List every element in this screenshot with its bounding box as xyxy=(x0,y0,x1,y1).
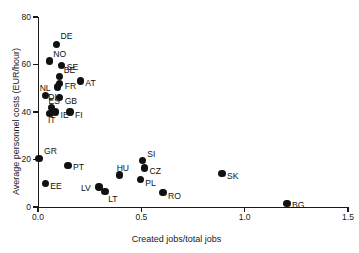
data-point-label-PL: PL xyxy=(145,179,156,188)
data-point-label-AT: AT xyxy=(85,79,95,88)
x-tick-label-0.5: 0.5 xyxy=(121,213,161,222)
data-point-label-GB: GB xyxy=(65,97,77,106)
data-point-PL xyxy=(137,176,144,183)
data-point-EE xyxy=(42,180,49,187)
y-axis-title: Average personnel costs (EUR/hour) xyxy=(11,48,21,195)
data-point-label-BE: BE xyxy=(64,66,75,75)
x-axis-title: Created jobs/total jobs xyxy=(0,234,353,244)
x-tick-0.5 xyxy=(141,207,142,212)
data-point-FI xyxy=(66,108,73,115)
data-point-label-SK: SK xyxy=(227,172,238,181)
x-tick-label-0.0: 0.0 xyxy=(18,213,58,222)
data-point-label-FI: FI xyxy=(75,111,83,120)
y-tick-label-0: 0 xyxy=(26,203,31,212)
x-tick-1.0 xyxy=(244,207,245,212)
x-tick-1.5 xyxy=(347,207,348,212)
data-point-AT xyxy=(77,77,84,84)
data-point-NL xyxy=(54,83,61,90)
data-point-BG xyxy=(283,200,290,207)
data-point-CZ xyxy=(141,164,148,171)
data-point-label-PT: PT xyxy=(73,163,84,172)
data-point-NO xyxy=(46,57,53,64)
data-point-label-CZ: CZ xyxy=(149,167,160,176)
y-tick-label-80: 80 xyxy=(22,13,31,22)
data-points-layer: DENOSEBEFRATNLDKGBESITIEFIGRPTEELVLTHUSI… xyxy=(38,17,348,207)
y-tick-label-40: 40 xyxy=(22,108,31,117)
data-point-label-SI: SI xyxy=(147,150,155,159)
data-point-label-LV: LV xyxy=(81,184,91,193)
data-point-GR xyxy=(35,155,42,162)
data-point-label-EE: EE xyxy=(50,182,61,191)
data-point-PT xyxy=(64,162,71,169)
data-point-label-LT: LT xyxy=(108,195,117,204)
data-point-label-NO: NO xyxy=(53,50,66,59)
x-tick-0.0 xyxy=(37,207,38,212)
x-tick-label-1.5: 1.5 xyxy=(328,213,359,222)
data-point-label-FR: FR xyxy=(65,82,76,91)
data-point-DE xyxy=(53,41,60,48)
data-point-label-IT: IT xyxy=(48,116,56,125)
data-point-label-BG: BG xyxy=(292,201,304,210)
data-point-RO xyxy=(159,189,166,196)
data-point-label-DE: DE xyxy=(61,32,73,41)
y-tick-label-60: 60 xyxy=(22,60,31,69)
data-point-BE xyxy=(56,73,63,80)
y-tick-label-20: 20 xyxy=(22,155,31,164)
data-point-label-GR: GR xyxy=(44,147,57,156)
x-tick-label-1.0: 1.0 xyxy=(225,213,265,222)
data-point-label-HU: HU xyxy=(117,164,129,173)
data-point-SK xyxy=(218,170,225,177)
data-point-IE xyxy=(52,108,59,115)
data-point-label-RO: RO xyxy=(168,192,181,201)
data-point-label-ES: ES xyxy=(48,97,59,106)
